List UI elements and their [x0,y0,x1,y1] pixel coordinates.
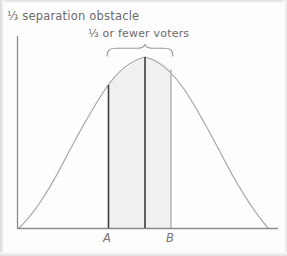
band-annotation-label: ⅓ or fewer voters [88,27,189,40]
chart-title: ⅓ separation obstacle [7,9,139,23]
range-brace [107,45,173,57]
figure-canvas: ⅓ separation obstacle ⅓ or fewer voters … [0,0,287,256]
axis-label-a: A [103,231,111,245]
shaded-band-region [108,57,171,228]
axis-label-b: B [166,231,174,245]
